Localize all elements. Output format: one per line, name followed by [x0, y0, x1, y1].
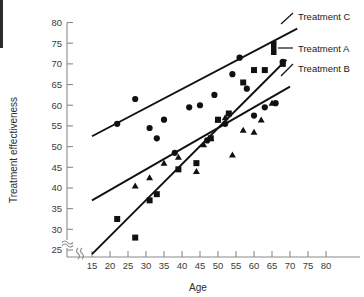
chart-canvas: 253035404550556065707580 152025303540455… — [0, 0, 364, 297]
data-point-treatment-c — [172, 150, 178, 156]
x-axis-tick-label: 35 — [159, 260, 170, 271]
data-point-treatment-a — [240, 79, 246, 85]
x-axis-tick-label: 30 — [141, 260, 152, 271]
data-point-treatment-a — [154, 191, 160, 197]
data-points — [114, 55, 286, 241]
trend-line-treatment-a — [92, 60, 286, 254]
trend-line-treatment-c — [92, 29, 297, 137]
x-axis-tick-label: 40 — [177, 260, 188, 271]
trend-lines — [92, 29, 297, 254]
data-point-treatment-b — [240, 127, 247, 133]
x-axis-tick-label: 20 — [105, 260, 116, 271]
page-edge-artifact — [0, 0, 3, 48]
data-point-treatment-c — [161, 117, 167, 123]
y-axis-tick-label: 60 — [51, 100, 62, 111]
scatter-chart: 253035404550556065707580 152025303540455… — [0, 0, 364, 297]
data-point-treatment-c — [211, 92, 217, 98]
legend-label-treatment-c: Treatment C — [298, 11, 351, 22]
data-point-treatment-c — [229, 71, 235, 77]
y-axis-tick-label: 45 — [51, 162, 62, 173]
y-axis-tick-label: 65 — [51, 79, 62, 90]
y-axis-tick-label: 35 — [51, 203, 62, 214]
data-point-treatment-a — [114, 216, 120, 222]
y-axis-tick-label: 80 — [51, 17, 62, 28]
data-point-treatment-b — [132, 183, 139, 189]
data-point-treatment-c — [197, 102, 203, 108]
data-point-treatment-c — [147, 125, 153, 131]
legend-label-treatment-a: Treatment A — [298, 43, 350, 54]
x-axis-tick-label: 65 — [267, 260, 278, 271]
data-point-treatment-a — [251, 67, 257, 73]
data-point-treatment-c — [262, 104, 268, 110]
x-axis-tick-label: 15 — [87, 260, 98, 271]
x-axis-tick-label: 75 — [303, 260, 314, 271]
data-point-treatment-b — [251, 129, 258, 135]
y-axis-title: Treatment effectiveness — [8, 97, 19, 203]
y-axis-tick-label: 30 — [51, 224, 62, 235]
data-point-treatment-b — [193, 168, 200, 174]
data-point-treatment-c — [222, 121, 228, 127]
x-axis-tick-label: 70 — [285, 260, 296, 271]
legend-leader-line — [281, 13, 293, 24]
y-axis-tick-labels: 253035404550556065707580 — [51, 17, 62, 256]
data-point-treatment-c — [237, 55, 243, 61]
y-axis-tick-label: 70 — [51, 58, 62, 69]
x-axis-tick-label: 45 — [195, 260, 206, 271]
x-axis-tick-label: 25 — [123, 260, 134, 271]
data-point-treatment-a — [226, 111, 232, 117]
y-axis-tick-label: 75 — [51, 38, 62, 49]
data-point-treatment-a — [147, 197, 153, 203]
x-axis-tick-label: 55 — [231, 260, 242, 271]
data-point-treatment-a — [175, 166, 181, 172]
y-axis-tick-label: 25 — [51, 244, 62, 255]
y-axis-tick-label: 40 — [51, 182, 62, 193]
data-point-treatment-b — [146, 174, 153, 180]
data-point-treatment-c — [186, 104, 192, 110]
data-point-treatment-a — [280, 61, 286, 67]
x-axis-tick-label: 80 — [321, 260, 332, 271]
data-point-treatment-c — [244, 86, 250, 92]
x-axis-tick-labels: 1520253035404550556065707580 — [87, 260, 332, 271]
data-point-treatment-c — [132, 96, 138, 102]
data-point-treatment-c — [114, 121, 120, 127]
data-point-treatment-b — [229, 152, 236, 158]
data-point-treatment-a — [132, 235, 138, 241]
x-axis-title: Age — [189, 282, 207, 293]
y-axis-tick-label: 55 — [51, 120, 62, 131]
x-axis-tick-label: 50 — [213, 260, 224, 271]
data-point-treatment-a — [193, 160, 199, 166]
data-point-treatment-c — [251, 112, 257, 118]
y-axis-tick-label: 50 — [51, 141, 62, 152]
data-point-treatment-a — [262, 67, 268, 73]
y-axis-break-mark — [62, 241, 73, 247]
legend-marker-bar — [271, 41, 277, 55]
x-axis-tick-label: 60 — [249, 260, 260, 271]
data-point-treatment-b — [258, 116, 265, 122]
legend-label-treatment-b: Treatment B — [298, 63, 350, 74]
data-point-treatment-c — [154, 135, 160, 141]
trend-line-treatment-b — [92, 87, 290, 201]
